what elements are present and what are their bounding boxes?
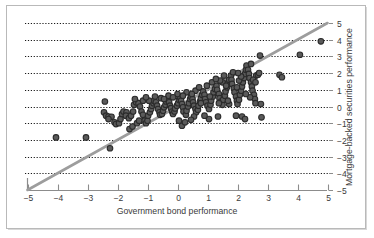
data-point [258,101,264,107]
data-point [253,79,259,85]
x-axis-ticks [29,185,329,191]
x-tick-label: −2 [114,193,124,203]
data-point [189,91,195,97]
x-tick-label: −3 [84,193,94,203]
data-point [256,70,262,76]
data-point [257,53,263,59]
x-tick-label: 3 [266,193,271,203]
data-point [161,96,167,102]
chart-figure: −5−4−3−2−1012345 −5−4−3−2−1012345 Govern… [0,0,374,238]
x-tick-label: 0 [176,193,181,203]
data-point [83,135,89,141]
x-axis-title: Government bond performance [117,206,238,216]
data-point [223,83,229,89]
y-tick-label: −5 [337,186,347,196]
y-tick-label: 5 [337,19,342,29]
data-point [297,52,303,58]
x-tick-label: −5 [24,193,34,203]
x-tick-label: −4 [54,193,64,203]
y-tick-label: 4 [337,36,342,46]
data-point [102,99,108,105]
data-point [259,115,265,121]
data-point [130,109,136,115]
y-tick-label: 1 [337,86,342,96]
data-point [152,94,158,100]
data-point [143,95,149,101]
data-point [248,61,254,67]
data-point [207,94,213,100]
data-point [318,39,324,45]
data-point [216,100,222,106]
x-tick-label: −1 [144,193,154,203]
data-point [225,98,231,104]
x-tick-label: 4 [296,193,301,203]
data-point [235,70,241,76]
data-points [53,39,324,151]
data-point [53,135,59,141]
data-point [188,117,194,123]
data-point [233,113,239,119]
x-tick-labels: −5−4−3−2−1012345 [24,193,331,203]
x-tick-label: 5 [326,193,331,203]
data-point [170,95,176,101]
data-point [198,100,204,106]
data-point [132,96,138,102]
y-axis-ticks [329,24,333,191]
data-point [213,76,219,82]
data-point [243,91,249,97]
data-point [106,116,112,122]
data-point [196,85,202,91]
axis-lines [27,178,327,191]
y-axis-title: Mortgage-backed securities performance [344,28,354,186]
data-point [182,120,188,126]
x-tick-label: 1 [206,193,211,203]
scatter-plot: −5−4−3−2−1012345 −5−4−3−2−1012345 Govern… [0,0,374,238]
data-point [242,116,248,122]
data-point [136,118,142,124]
y-tick-label: 0 [337,103,342,113]
data-point [253,100,259,106]
data-point [107,145,113,151]
data-point [234,85,240,91]
y-tick-label: 3 [337,52,342,62]
data-point [279,74,285,80]
data-point [204,83,210,89]
data-point [202,113,208,119]
data-point [180,93,186,99]
x-tick-label: 2 [236,193,241,203]
y-tick-label: 2 [337,69,342,79]
data-point [176,118,182,124]
data-point [215,114,221,120]
data-point [221,73,227,79]
